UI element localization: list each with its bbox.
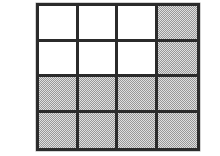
grid-cell-r1c2[interactable]: [79, 6, 119, 42]
grid-cell-r2c4[interactable]: [158, 42, 198, 78]
grid-area-model: [36, 3, 200, 151]
grid-cell-r3c2[interactable]: [79, 77, 119, 113]
grid-cell-r2c3[interactable]: [118, 42, 158, 78]
grid-cell-r4c3[interactable]: [118, 113, 158, 149]
grid-cell-r3c1[interactable]: [39, 77, 79, 113]
figure-canvas: Shaded area grid model: [0, 0, 220, 156]
grid-cell-r1c4[interactable]: [158, 6, 198, 42]
grid-cell-r4c2[interactable]: [79, 113, 119, 149]
grid-cell-r3c3[interactable]: [118, 77, 158, 113]
grid-cell-r4c1[interactable]: [39, 113, 79, 149]
grid-cell-r1c3[interactable]: [118, 6, 158, 42]
grid-cell-r4c4[interactable]: [158, 113, 198, 149]
grid-cell-r2c2[interactable]: [79, 42, 119, 78]
grid-cell-r2c1[interactable]: [39, 42, 79, 78]
grid-cell-r1c1[interactable]: [39, 6, 79, 42]
grid-cell-r3c4[interactable]: [158, 77, 198, 113]
